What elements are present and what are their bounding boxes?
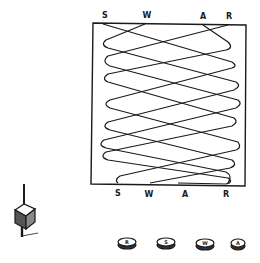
bottom-label-s: S: [115, 190, 121, 198]
token-label-r: R: [125, 240, 129, 245]
top-label-r: R: [226, 13, 232, 21]
bottom-label-r: R: [223, 191, 229, 199]
bottom-label-w: W: [145, 191, 154, 199]
weave-path-r: [101, 25, 240, 183]
board-frame: [91, 23, 246, 186]
token-label-a: A: [236, 241, 240, 246]
top-label-s: S: [102, 12, 108, 20]
weave-path-w: [103, 24, 238, 183]
weave-path-s: [103, 24, 240, 183]
token-label-w: W: [202, 241, 208, 246]
top-label-a: A: [200, 13, 206, 21]
diagram-canvas: [0, 0, 260, 263]
spinning-top-icon: [15, 184, 38, 237]
token-label-s: S: [164, 240, 168, 245]
top-label-w: W: [143, 12, 152, 20]
bottom-label-a: A: [182, 191, 188, 199]
